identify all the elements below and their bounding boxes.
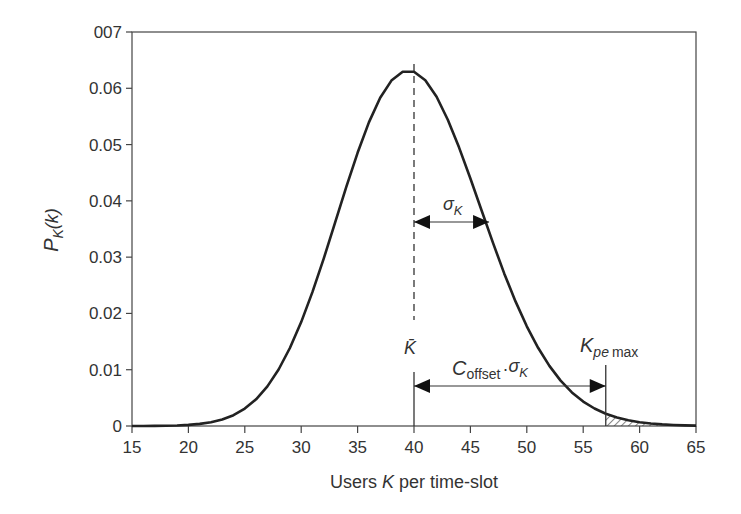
- y-tick-label: 0.02: [89, 304, 122, 323]
- x-tick-label: 65: [687, 438, 706, 457]
- sigma-arrow: [414, 215, 489, 229]
- x-axis-ticks: 1520253035404550556065: [123, 426, 706, 457]
- x-tick-label: 35: [348, 438, 367, 457]
- offset-label: Coffset·σK: [452, 356, 529, 382]
- y-axis-title: PK(k): [40, 208, 66, 252]
- x-tick-label: 45: [461, 438, 480, 457]
- x-tick-label: 30: [292, 438, 311, 457]
- x-tick-label: 55: [574, 438, 593, 457]
- poisson-distribution-chart: 1520253035404550556065 00.010.020.030.04…: [0, 0, 741, 514]
- x-tick-label: 40: [405, 438, 424, 457]
- offset-arrow: [414, 379, 606, 393]
- y-tick-label: 0.04: [89, 192, 122, 211]
- y-tick-label: 0.03: [89, 248, 122, 267]
- x-tick-label: 60: [630, 438, 649, 457]
- x-tick-label: 25: [235, 438, 254, 457]
- y-tick-label: 0: [113, 417, 122, 436]
- y-tick-label: 0.06: [89, 79, 122, 98]
- kpe-max-label: Kpemax: [580, 334, 638, 360]
- y-axis-ticks: 00.010.020.030.040.050.06007: [89, 23, 132, 436]
- x-axis-title: Users K per time-slot: [330, 472, 498, 492]
- sigma-label: σK: [443, 194, 464, 218]
- y-tick-label: 0.01: [89, 361, 122, 380]
- y-tick-label: 0.05: [89, 136, 122, 155]
- y-tick-label: 007: [94, 23, 122, 42]
- x-tick-label: 50: [517, 438, 536, 457]
- x-tick-label: 20: [179, 438, 198, 457]
- mean-label: K̄: [404, 338, 417, 358]
- x-tick-label: 15: [123, 438, 142, 457]
